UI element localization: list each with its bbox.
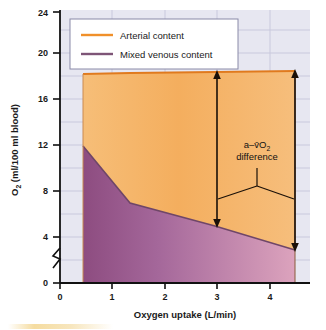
legend-background xyxy=(70,19,238,69)
x-tick-4: 4 xyxy=(267,292,272,302)
y-tick-20: 20 xyxy=(38,48,48,58)
x-tick-0: 0 xyxy=(57,292,62,302)
legend-label-arterial: Arterial content xyxy=(120,30,184,41)
x-tick-2: 2 xyxy=(162,292,167,302)
legend-label-mixed-venous: Mixed venous content xyxy=(120,49,213,60)
y-tick-0: 0 xyxy=(43,278,48,288)
x-tick-3: 3 xyxy=(214,292,219,302)
y-tick-12: 12 xyxy=(38,140,48,150)
legend: Arterial content Mixed venous content xyxy=(70,19,238,69)
x-tick-1: 1 xyxy=(109,292,114,302)
y-tick-4: 4 xyxy=(43,232,48,242)
y-tick-24: 24 xyxy=(38,8,48,18)
oxygen-content-chart: a–v̄O2 difference Arterial content Mixed… xyxy=(0,0,326,330)
x-axis-title: Oxygen uptake (L/min) xyxy=(134,309,236,320)
avo2-annotation-line2: difference xyxy=(236,151,278,162)
y-tick-8: 8 xyxy=(43,186,48,196)
y-tick-16: 16 xyxy=(38,94,48,104)
footer-strip xyxy=(8,324,113,329)
